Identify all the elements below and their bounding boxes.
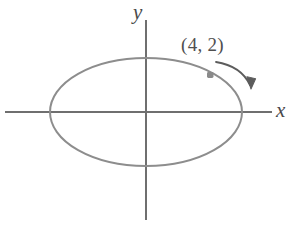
y-axis-label: y — [133, 2, 142, 23]
point-marker — [207, 72, 214, 78]
x-axis-label: x — [276, 100, 285, 121]
coordinate-plane-figure — [0, 0, 298, 225]
point-coordinate-label: (4, 2) — [181, 35, 224, 56]
